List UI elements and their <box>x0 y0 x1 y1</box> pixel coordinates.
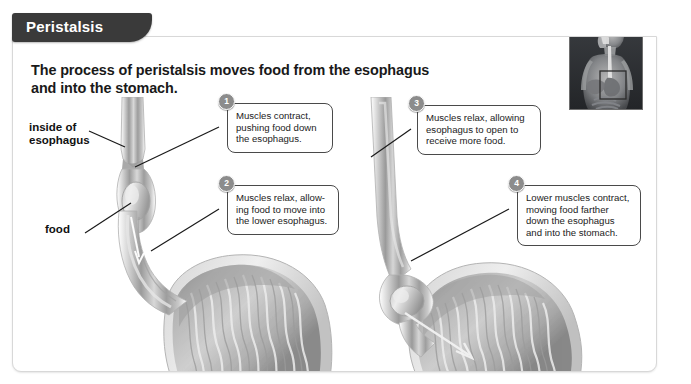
callout-2-line-3: the lower esophagus. <box>236 215 331 227</box>
callout-4-line-2: moving food farther <box>526 204 633 216</box>
callout-4-line-3: down the esophagus <box>526 215 633 227</box>
callout-3-line-2: esophagus to open to <box>426 124 533 136</box>
callout-2-line-1: Muscles relax, allow- <box>236 192 331 204</box>
callout-3-line-3: receive more food. <box>426 135 533 147</box>
callout-3-text: Muscles relax, allowing esophagus to ope… <box>418 106 540 153</box>
callout-2[interactable]: 2 Muscles relax, allow- ing food to move… <box>227 185 339 235</box>
label-line-2: esophagus <box>29 134 90 147</box>
callout-4-line-1: Lower muscles contract, <box>526 192 633 204</box>
callout-4[interactable]: 4 Lower muscles contract, moving food fa… <box>517 185 641 246</box>
heading-line-1: The process of peristalsis moves food fr… <box>31 61 431 79</box>
callout-2-badge: 2 <box>218 175 235 192</box>
callout-4-text: Lower muscles contract, moving food fart… <box>518 186 640 244</box>
callout-1[interactable]: 1 Muscles contract, pushing food down th… <box>227 103 333 153</box>
body-locator-inset <box>569 36 643 110</box>
label-line-1: food <box>45 223 70 236</box>
callout-1-line-3: the esophagus. <box>236 133 325 145</box>
callout-4-badge: 4 <box>508 175 525 192</box>
callout-3-badge: 3 <box>408 95 425 112</box>
label-inside-of-esophagus: inside of esophagus <box>29 121 90 147</box>
label-line-1: inside of <box>29 121 90 134</box>
callout-1-line-2: pushing food down <box>236 122 325 134</box>
callout-3-line-1: Muscles relax, allowing <box>426 112 533 124</box>
diagram-card: The process of peristalsis moves food fr… <box>12 36 657 372</box>
callout-1-text: Muscles contract, pushing food down the … <box>228 104 332 151</box>
page-title: The process of peristalsis moves food fr… <box>31 61 431 97</box>
callout-1-badge: 1 <box>218 93 235 110</box>
label-food: food <box>45 223 70 236</box>
callout-1-line-1: Muscles contract, <box>236 110 325 122</box>
banner-title: Peristalsis <box>26 18 103 35</box>
callout-3[interactable]: 3 Muscles relax, allowing esophagus to o… <box>417 105 541 155</box>
callout-2-line-2: ing food to move into <box>236 204 331 216</box>
section-banner: Peristalsis <box>12 13 152 42</box>
peristalsis-diagram: The process of peristalsis moves food fr… <box>0 0 691 384</box>
callout-4-line-4: and into the stomach. <box>526 227 633 239</box>
callout-2-text: Muscles relax, allow- ing food to move i… <box>228 186 338 233</box>
